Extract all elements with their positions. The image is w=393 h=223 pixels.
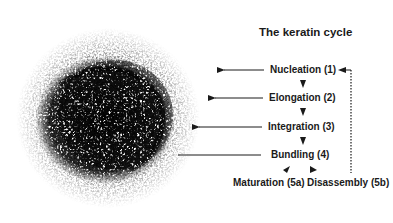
step-integration: Integration (3) <box>268 121 335 133</box>
arrow-down-icon <box>300 80 306 88</box>
step-elongation: Elongation (2) <box>269 92 336 104</box>
step-bundling: Bundling (4) <box>271 149 329 161</box>
recycle-path <box>338 67 351 173</box>
arrow-down-icon <box>300 137 306 145</box>
diagram-title: The keratin cycle <box>259 26 352 38</box>
branch-maturation: Maturation (5a) <box>233 177 305 189</box>
arrow-down-icon <box>300 108 306 116</box>
keratin-cycle-figure: The keratin cycle Nucleation (1) Elongat… <box>0 0 393 223</box>
arrow-down-right-icon <box>310 166 317 173</box>
arrow-left-icon <box>338 67 346 73</box>
arrow-down-left-icon <box>283 166 290 173</box>
branch-disassembly: Disassembly (5b) <box>307 177 389 189</box>
keratin-network-image <box>16 28 200 208</box>
step-nucleation: Nucleation (1) <box>270 64 336 76</box>
